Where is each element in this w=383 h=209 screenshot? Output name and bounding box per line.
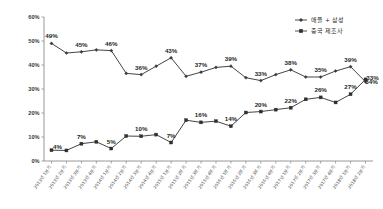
data-value-label: 37% bbox=[195, 61, 208, 68]
data-value-label: 35% bbox=[314, 66, 327, 73]
data-point-marker bbox=[140, 135, 143, 138]
y-tick-label: 0% bbox=[31, 158, 39, 164]
data-value-label: 46% bbox=[105, 40, 118, 47]
data-point-marker bbox=[274, 108, 277, 111]
y-tick-label: 40% bbox=[28, 62, 39, 68]
data-point-marker bbox=[304, 98, 307, 101]
data-value-label: 27% bbox=[344, 83, 357, 90]
y-tick-label: 50% bbox=[28, 38, 39, 44]
y-tick-label: 20% bbox=[28, 110, 39, 116]
data-point-marker bbox=[229, 125, 232, 128]
data-value-label: 33% bbox=[255, 70, 268, 77]
data-value-label: 49% bbox=[45, 32, 58, 39]
data-point-marker bbox=[80, 142, 83, 145]
data-value-label: 43% bbox=[165, 47, 178, 54]
data-value-label: 39% bbox=[225, 55, 238, 62]
data-value-label: 7% bbox=[77, 133, 86, 140]
data-value-label: 22% bbox=[285, 97, 298, 104]
data-point-marker bbox=[289, 106, 292, 109]
data-point-marker bbox=[155, 133, 158, 136]
y-tick-label: 60% bbox=[28, 14, 39, 20]
line-chart: 0%10%20%30%40%50%60% 2013년 1분기2013년 2분기2… bbox=[0, 0, 383, 209]
data-point-marker bbox=[244, 111, 247, 114]
data-value-label: 38% bbox=[285, 59, 298, 66]
data-point-marker bbox=[349, 93, 352, 96]
data-value-label: 45% bbox=[75, 41, 88, 48]
legend-marker-square bbox=[299, 29, 302, 32]
data-value-label: 10% bbox=[135, 125, 148, 132]
data-point-marker bbox=[110, 147, 113, 150]
chart-container: 0%10%20%30%40%50%60% 2013년 1분기2013년 2분기2… bbox=[0, 0, 383, 209]
data-point-marker bbox=[170, 141, 173, 144]
data-point-marker bbox=[65, 149, 68, 152]
data-point-marker bbox=[319, 96, 322, 99]
data-value-label: 36% bbox=[135, 64, 148, 71]
data-point-marker bbox=[334, 101, 337, 104]
legend-label-1: 애플 + 삼성 bbox=[311, 16, 344, 24]
data-value-label: 7% bbox=[167, 132, 176, 139]
data-value-label: 34% bbox=[365, 78, 378, 85]
y-tick-label: 10% bbox=[28, 134, 39, 140]
data-value-label: 39% bbox=[344, 56, 357, 63]
data-point-marker bbox=[185, 119, 188, 122]
data-value-label: 20% bbox=[255, 101, 268, 108]
data-point-marker bbox=[259, 110, 262, 113]
y-tick-label: 30% bbox=[28, 86, 39, 92]
data-point-marker bbox=[95, 140, 98, 143]
data-value-label: 5% bbox=[107, 138, 116, 145]
data-point-marker bbox=[214, 120, 217, 123]
data-value-label: 16% bbox=[195, 111, 208, 118]
data-value-label: 4% bbox=[53, 143, 62, 150]
data-point-marker bbox=[125, 135, 128, 138]
data-value-label: 26% bbox=[314, 86, 327, 93]
data-point-marker bbox=[200, 121, 203, 124]
legend-label-2: 중국 제조사 bbox=[311, 27, 343, 35]
data-value-label: 14% bbox=[225, 115, 238, 122]
